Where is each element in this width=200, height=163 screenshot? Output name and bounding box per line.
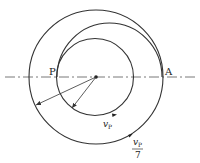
orbit-diagram: P A vP vP 7: [0, 0, 200, 163]
label-a: A: [164, 66, 173, 77]
label-outer-velocity-denominator: 7: [135, 150, 141, 160]
inner-radius-arrow: [72, 77, 96, 108]
label-p: P: [49, 66, 56, 77]
label-inner-velocity: vP: [103, 119, 112, 130]
label-outer-velocity-numerator: vP: [133, 137, 142, 148]
inner-velocity-arrow-icon: [112, 114, 117, 118]
transfer-orbit-arc: [57, 23, 162, 77]
outer-radius-arrow: [36, 77, 96, 105]
